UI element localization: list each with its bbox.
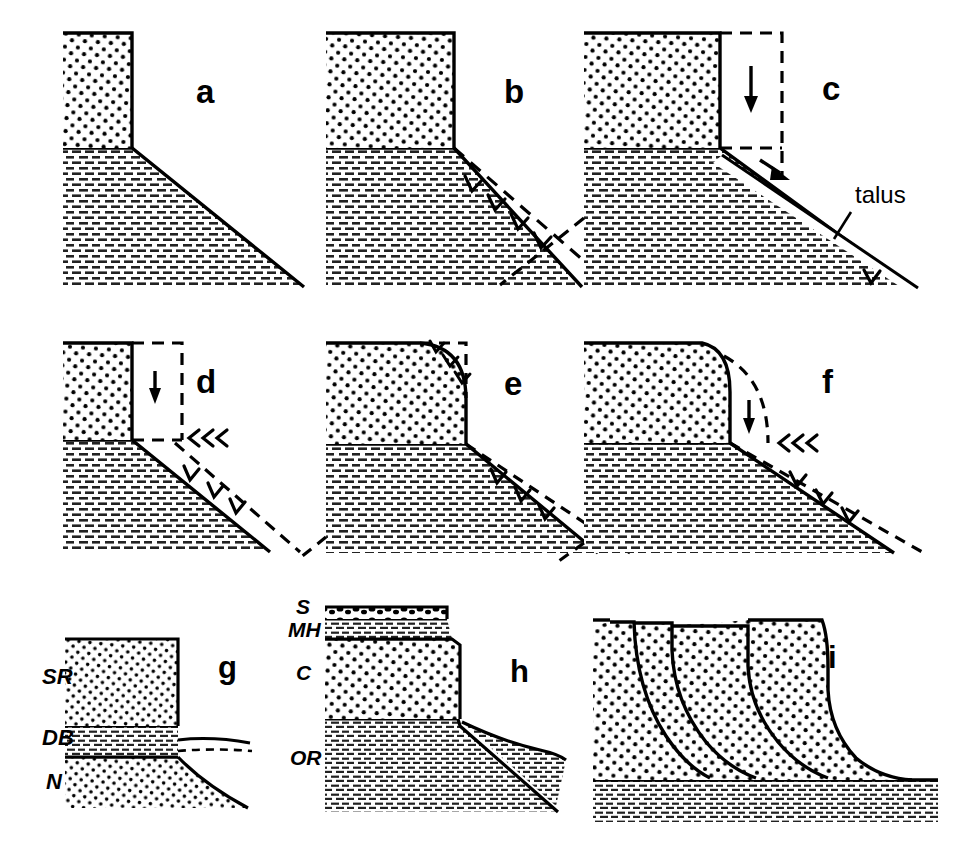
panel-letter-f: f: [822, 363, 834, 400]
panel-a-sandstone-unit: [63, 33, 132, 148]
unit-label-sr: SR: [42, 664, 73, 689]
unit-label-n: N: [46, 769, 63, 794]
panel-f-sandstone-unit: [584, 343, 730, 443]
panel-c-sandstone-unit: [584, 33, 720, 148]
panel-i-basal-shale: [593, 780, 938, 822]
panel-letter-i: i: [828, 640, 837, 675]
panel-g-unit-SR: [65, 639, 178, 726]
talus-label: talus: [855, 181, 906, 208]
panel-letter-d: d: [196, 363, 216, 400]
panel-letter-h: h: [510, 654, 529, 689]
panel-letter-g: g: [218, 650, 237, 685]
panel-h-unit-MH: [325, 619, 452, 639]
panel-b-sandstone-unit: [326, 33, 454, 148]
unit-label-s: S: [296, 595, 310, 618]
unit-label-mh: MH: [288, 618, 321, 641]
unit-label-or: OR: [290, 746, 322, 769]
unit-label-db: DB: [42, 725, 74, 750]
panel-h-unit-S: [325, 607, 447, 619]
geologic-cross-section-figure: a b: [0, 0, 968, 851]
panel-letter-c: c: [822, 70, 840, 107]
panel-letter-a: a: [196, 73, 215, 110]
panel-d-sandstone-unit: [63, 343, 132, 440]
panel-h-unit-C: [325, 639, 460, 719]
panel-letter-e: e: [504, 365, 522, 402]
unit-label-c: C: [296, 661, 312, 684]
panel-letter-b: b: [504, 73, 524, 110]
